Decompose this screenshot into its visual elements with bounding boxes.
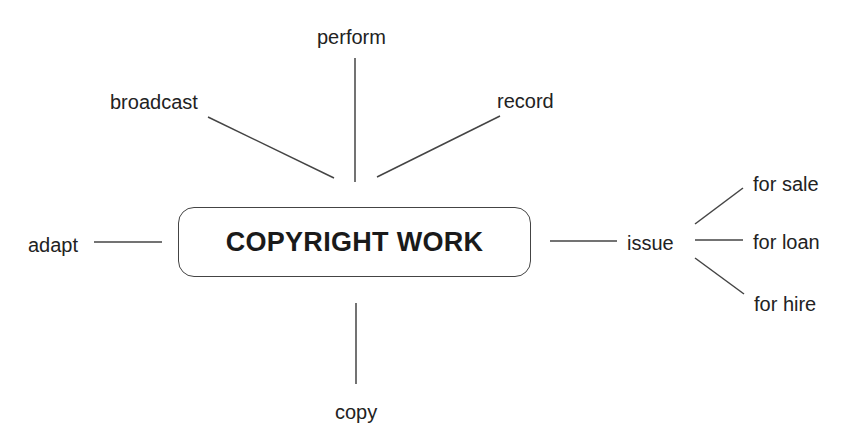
branch-broadcast: broadcast [110, 92, 198, 112]
subbranch-for-hire: for hire [754, 294, 816, 314]
branch-copy: copy [335, 402, 377, 422]
line-record [377, 116, 500, 177]
branch-adapt: adapt [28, 235, 78, 255]
line-for-hire [695, 258, 744, 294]
central-node-label: COPYRIGHT WORK [226, 227, 484, 258]
line-for-sale [695, 188, 743, 224]
central-node: COPYRIGHT WORK [178, 207, 531, 277]
branch-record: record [497, 91, 554, 111]
branch-perform: perform [317, 27, 386, 47]
branch-issue: issue [627, 233, 674, 253]
subbranch-for-loan: for loan [753, 232, 820, 252]
line-broadcast [208, 117, 334, 178]
subbranch-for-sale: for sale [753, 174, 819, 194]
